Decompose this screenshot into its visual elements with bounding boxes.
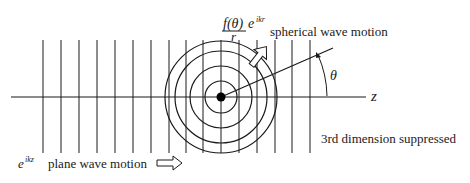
plane-formula-base: e	[18, 156, 24, 171]
spherical-wave-label: spherical wave motion	[270, 24, 388, 39]
plane-wave-arrow-icon	[157, 156, 182, 170]
angle-arc	[318, 55, 327, 96]
plane-formula-exp-ikz: ikz	[25, 155, 35, 164]
scattering-diagram: f(θ) r e ikr spherical wave motion θ z 3…	[0, 0, 470, 183]
z-axis-label: z	[370, 88, 377, 104]
scattering-center-dot	[217, 93, 226, 102]
formula-exp-base: e	[248, 16, 254, 31]
angle-arrowhead-icon	[316, 52, 321, 58]
diagram-canvas: f(θ) r e ikr spherical wave motion θ z 3…	[0, 0, 470, 183]
plane-wave-label: plane wave motion	[48, 156, 147, 171]
theta-label: θ	[330, 68, 337, 83]
formula-exp-ikr: ikr	[256, 15, 266, 24]
suppressed-dimension-note: 3rd dimension suppressed	[321, 131, 457, 146]
spherical-arrow-icon	[245, 42, 272, 71]
